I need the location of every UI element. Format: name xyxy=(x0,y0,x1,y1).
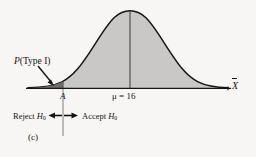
figure-caption: (c) xyxy=(28,133,38,142)
reject-h0-label: Reject H0 xyxy=(13,112,46,122)
x-bar-letter: X xyxy=(232,78,238,91)
x-bar-glyph: X xyxy=(232,78,238,91)
reject-h0-text: Reject xyxy=(13,111,37,121)
reject-arrow-head xyxy=(49,112,56,118)
accept-arrow-head xyxy=(72,112,79,118)
distribution-shaded-area xyxy=(28,11,228,88)
normal-distribution-chart xyxy=(0,0,256,157)
type-one-error-label-body: (Type I) xyxy=(20,56,51,66)
reject-h0-subscript: 0 xyxy=(43,115,46,121)
accept-h0-text: Accept xyxy=(82,111,108,121)
critical-value-label: A xyxy=(60,92,66,101)
accept-h0-subscript: 0 xyxy=(114,115,117,121)
overbar-icon xyxy=(232,78,237,79)
figure-container: P(Type I) A μ = 16 X Reject H0 Accept H0… xyxy=(0,0,256,157)
type-one-error-label: P(Type I) xyxy=(14,57,51,67)
accept-h0-label: Accept H0 xyxy=(82,112,117,122)
mean-label: μ = 16 xyxy=(112,92,135,101)
x-bar-axis-label: X xyxy=(232,78,238,91)
